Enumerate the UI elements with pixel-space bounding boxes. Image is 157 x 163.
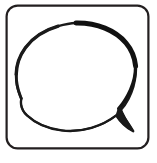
speech-bubble-icon [0, 0, 157, 163]
icon-canvas: Black outlined speech bubble inside a ro… [0, 0, 157, 163]
